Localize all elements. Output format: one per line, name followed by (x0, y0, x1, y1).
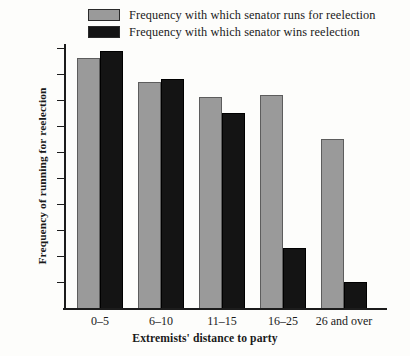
y-tick-10 (57, 282, 64, 283)
bar-chart-figure: Frequency with which senator runs for re… (0, 0, 410, 356)
legend-label-runs: Frequency with which senator runs for re… (129, 8, 376, 22)
bar-runs-11-15 (199, 97, 222, 308)
x-axis-line (63, 308, 387, 310)
y-tick-70 (57, 126, 64, 127)
y-tick-80 (57, 100, 64, 101)
x-tick-label-26-and-over: 26 and over (289, 314, 399, 329)
y-tick-90 (57, 74, 64, 75)
y-axis-title: Frequency of running for reelection (36, 51, 48, 301)
bar-runs-6-10 (138, 82, 161, 308)
legend-swatch-gray-icon (88, 9, 120, 21)
legend-swatch-black-icon (88, 26, 120, 38)
y-tick-40 (57, 204, 64, 205)
legend-item-wins: Frequency with which senator wins reelec… (88, 24, 398, 40)
bar-wins-0-5 (100, 51, 123, 308)
bar-runs-16-25 (260, 95, 283, 308)
bar-wins-16-25 (283, 248, 306, 308)
bar-wins-11-15 (222, 113, 245, 308)
y-tick-20 (57, 256, 64, 257)
bar-wins-6-10 (161, 79, 184, 308)
chart-legend: Frequency with which senator runs for re… (88, 7, 398, 41)
legend-label-wins: Frequency with which senator wins reelec… (129, 25, 360, 39)
legend-item-runs: Frequency with which senator runs for re… (88, 7, 398, 23)
y-tick-60 (57, 152, 64, 153)
plot-area: 100% 90 80 70 60 50 40 30 20 10 0 0–5 6–… (64, 48, 387, 308)
bar-runs-26-and-over (321, 139, 344, 308)
y-tick-100 (57, 48, 64, 49)
bar-runs-0-5 (77, 58, 100, 308)
y-tick-50 (57, 178, 64, 179)
y-tick-30 (57, 230, 64, 231)
bar-wins-26-and-over (344, 282, 367, 308)
x-axis-title: Extremists' distance to party (0, 332, 410, 345)
y-axis-line (64, 44, 66, 310)
